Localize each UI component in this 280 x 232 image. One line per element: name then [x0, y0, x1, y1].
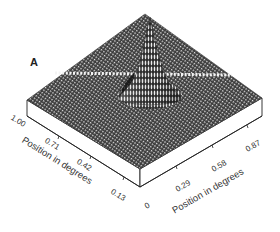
surface-plot: A 1.00 0.71 0.42 0.13 Position in degree…	[0, 0, 280, 232]
panel-label: A	[30, 56, 38, 68]
surface-plot-svg	[0, 0, 280, 232]
